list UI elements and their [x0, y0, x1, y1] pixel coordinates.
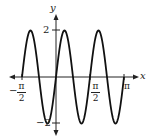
x-axis-label: x [140, 71, 146, 81]
y-axis-label: y [50, 3, 56, 13]
numerator: π [19, 82, 25, 91]
x-tick-label-pi: π [124, 82, 130, 91]
denominator: 2 [93, 94, 99, 103]
y-axis-up-arrow-icon [54, 14, 59, 20]
y-axis-down-arrow-icon [54, 130, 59, 136]
x-tick-label-neg-pi-half: π 2 [17, 82, 26, 103]
sine-graph [0, 0, 148, 139]
y-tick-label-neg2: −2 [36, 118, 51, 128]
x-axis-left-arrow-icon [9, 75, 15, 80]
numerator: π [93, 82, 99, 91]
denominator: 2 [19, 94, 25, 103]
x-axis-right-arrow-icon [133, 75, 139, 80]
y-tick-label-2: 2 [43, 25, 49, 35]
x-tick-label-pi-half: π 2 [91, 82, 100, 103]
